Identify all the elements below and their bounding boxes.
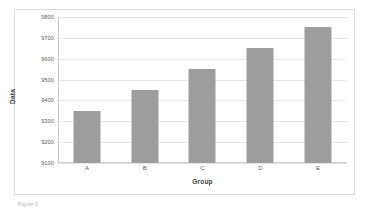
y-axis-tick-label: 9500 bbox=[24, 77, 54, 83]
x-axis-tick-label: B bbox=[143, 165, 147, 171]
bar-slot bbox=[116, 17, 174, 163]
y-axis-tick-label: 9400 bbox=[24, 97, 54, 103]
bar[interactable] bbox=[189, 69, 216, 163]
y-axis-tick-labels: 98009700960095009400930092009100 bbox=[24, 17, 54, 163]
bar-series bbox=[58, 17, 347, 163]
bar[interactable] bbox=[73, 111, 100, 163]
x-axis-tick-label: D bbox=[258, 165, 262, 171]
x-axis-tick-label: E bbox=[316, 165, 320, 171]
bar[interactable] bbox=[305, 27, 332, 163]
bar-slot bbox=[231, 17, 289, 163]
figure-caption: Figure 5 bbox=[18, 201, 138, 208]
gridline bbox=[58, 163, 347, 164]
figure-container: Data 98009700960095009400930092009100 AB… bbox=[0, 0, 373, 219]
y-axis-title: Data bbox=[5, 72, 19, 120]
y-axis-tick-label: 9600 bbox=[24, 56, 54, 62]
y-axis-title-label: Data bbox=[9, 89, 16, 104]
x-axis-title: Group bbox=[58, 178, 347, 185]
y-axis-tick-label: 9700 bbox=[24, 35, 54, 41]
y-axis-tick-label: 9800 bbox=[24, 14, 54, 20]
y-axis-tick-label: 9200 bbox=[24, 139, 54, 145]
bar-slot bbox=[58, 17, 116, 163]
x-axis-tick-label: C bbox=[200, 165, 204, 171]
x-axis-tick-labels: ABCDE bbox=[58, 165, 347, 177]
y-axis-tick-label: 9100 bbox=[24, 160, 54, 166]
y-axis-tick-label: 9300 bbox=[24, 118, 54, 124]
bar[interactable] bbox=[247, 48, 274, 163]
bar[interactable] bbox=[131, 90, 158, 163]
x-axis-tick-label: A bbox=[85, 165, 89, 171]
bar-slot bbox=[174, 17, 232, 163]
bar-slot bbox=[289, 17, 347, 163]
plot-area bbox=[58, 17, 347, 163]
